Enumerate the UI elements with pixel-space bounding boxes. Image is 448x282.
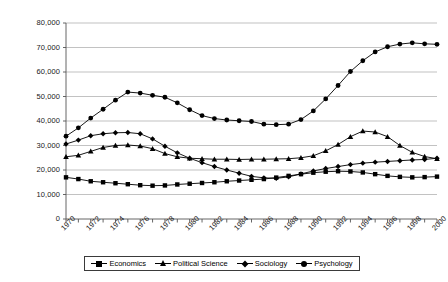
y-axis-tick-label: 40,000 — [2, 116, 60, 125]
legend-item-political-science: Political Science — [155, 259, 228, 268]
y-axis-tick-label: 70,000 — [2, 43, 60, 52]
grid-lines — [66, 23, 437, 195]
circle-marker-icon — [296, 259, 312, 268]
chart-series-psychology — [64, 40, 440, 138]
legend-item-label: Political Science — [173, 260, 228, 268]
chart-series-sociology — [63, 130, 439, 181]
legend-item-psychology: Psychology — [296, 259, 352, 268]
legend-item-sociology: Sociology — [237, 259, 288, 268]
diamond-marker-icon — [237, 259, 253, 268]
legend-item-economics: Economics — [91, 259, 146, 268]
legend-item-label: Economics — [109, 260, 146, 268]
y-axis-tick-label: 80,000 — [2, 18, 60, 27]
chart-legend: EconomicsPolitical ScienceSociologyPsych… — [84, 256, 360, 271]
y-axis-tick-label: 20,000 — [2, 165, 60, 174]
y-axis-tick-label: 60,000 — [2, 67, 60, 76]
chart-series-political-science — [63, 128, 440, 161]
y-axis-tick-label: 0 — [2, 214, 60, 223]
legend-item-label: Sociology — [255, 260, 288, 268]
triangle-marker-icon — [155, 259, 171, 268]
legend-item-label: Psychology — [314, 260, 352, 268]
square-marker-icon — [91, 259, 107, 268]
y-axis-tick-label: 10,000 — [2, 190, 60, 199]
y-axis-tick-label: 50,000 — [2, 92, 60, 101]
y-axis-tick-label: 30,000 — [2, 141, 60, 150]
